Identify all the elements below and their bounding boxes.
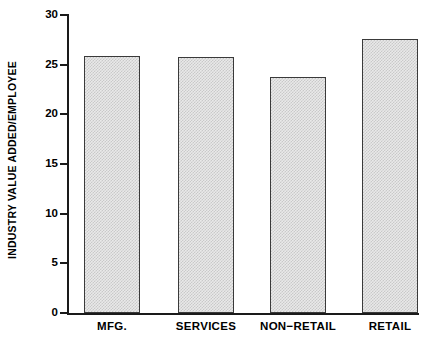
x-axis-tick-label: NON−RETAIL bbox=[260, 320, 336, 332]
bar-chart: INDUSTRY VALUE ADDED/EMPLOYEE 0510152025… bbox=[0, 0, 427, 348]
plot-area bbox=[67, 15, 419, 313]
y-axis-title: INDUSTRY VALUE ADDED/EMPLOYEE bbox=[0, 0, 24, 320]
x-axis-tick-label: RETAIL bbox=[369, 320, 411, 332]
y-axis-tick-label: 30 bbox=[30, 9, 58, 21]
bar-retail bbox=[362, 39, 418, 313]
y-axis-tick-mark bbox=[60, 163, 69, 165]
bar-services bbox=[178, 57, 234, 313]
y-axis-tick-mark bbox=[60, 312, 69, 314]
y-axis-tick-label: 5 bbox=[30, 258, 58, 270]
bar-non-retail bbox=[270, 77, 326, 313]
x-axis-tick-labels: MFG.SERVICESNON−RETAILRETAIL bbox=[67, 320, 419, 342]
y-axis-tick-mark bbox=[60, 64, 69, 66]
y-axis-tick-label: 25 bbox=[30, 59, 58, 71]
y-axis-tick-label: 15 bbox=[30, 158, 58, 170]
y-axis-tick-mark bbox=[60, 213, 69, 215]
y-axis-title-text: INDUSTRY VALUE ADDED/EMPLOYEE bbox=[6, 61, 18, 259]
y-axis-tick-mark bbox=[60, 14, 69, 16]
y-axis-tick-label: 0 bbox=[30, 307, 58, 319]
y-axis-tick-mark bbox=[60, 262, 69, 264]
y-axis-tick-labels: 051015202530 bbox=[28, 0, 58, 348]
y-axis-tick-mark bbox=[60, 113, 69, 115]
y-axis-tick-label: 10 bbox=[30, 208, 58, 220]
bar-mfg bbox=[84, 56, 140, 313]
x-axis-line bbox=[67, 313, 419, 315]
x-axis-tick-label: MFG. bbox=[97, 320, 127, 332]
x-axis-tick-label: SERVICES bbox=[176, 320, 236, 332]
y-axis-tick-label: 20 bbox=[30, 109, 58, 121]
